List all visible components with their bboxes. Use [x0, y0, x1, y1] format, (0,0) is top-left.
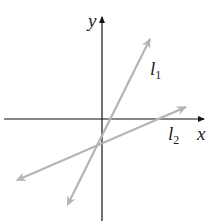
x-axis-label: x — [197, 124, 205, 143]
line-l2 — [22, 107, 186, 178]
line-l1-subscript: 1 — [155, 68, 161, 82]
y-axis-label: y — [88, 11, 96, 30]
line-l2-label: l2 — [168, 124, 179, 146]
line-l2-subscript: 2 — [173, 133, 179, 147]
line-l1-label: l1 — [150, 59, 161, 81]
diagram-canvas — [0, 0, 217, 224]
diagram: y x l1 l2 — [0, 0, 217, 224]
